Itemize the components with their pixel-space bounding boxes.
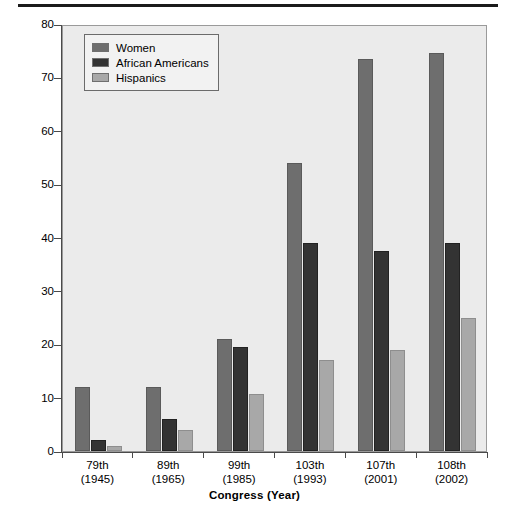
y-axis-tick-label: 10: [0, 392, 54, 404]
y-axis-tick-label: 60: [0, 125, 54, 137]
y-axis-tick-label: 80: [0, 18, 54, 30]
bar-hispanics-108th: [461, 318, 476, 451]
y-axis-tick-label: 70: [0, 71, 54, 83]
y-axis-tick: [54, 291, 61, 292]
plot-area: Women African Americans Hispanics: [62, 25, 487, 452]
x-axis-title: Congress (Year): [0, 489, 509, 501]
y-axis-tick-label: 0: [0, 445, 54, 457]
y-axis-tick: [54, 25, 61, 26]
legend-label-women: Women: [116, 42, 155, 54]
y-axis-tick-label: 20: [0, 338, 54, 350]
bar-women-108th: [429, 53, 444, 451]
legend-swatch-hispanics-icon: [92, 73, 109, 82]
y-axis-tick: [54, 345, 61, 346]
y-axis-tick: [54, 238, 61, 239]
bar-african-americans-103th: [303, 243, 318, 451]
y-axis-tick-label: 50: [0, 178, 54, 190]
bar-african-americans-99th: [233, 347, 248, 451]
y-axis-tick: [54, 398, 61, 399]
bar-african-americans-108th: [445, 243, 460, 451]
x-axis-group-label: 108th(2002): [407, 458, 497, 486]
y-axis-tick: [54, 185, 61, 186]
x-axis-line: [54, 452, 488, 453]
bar-women-103th: [287, 163, 302, 451]
chart-legend: Women African Americans Hispanics: [84, 34, 219, 91]
figure-container: Number 01020304050607080 Women African A…: [0, 0, 509, 508]
bar-hispanics-107th: [390, 350, 405, 451]
legend-item-women: Women: [92, 40, 209, 55]
x-axis-congress-label: 108th: [407, 458, 497, 472]
legend-swatch-african-americans-icon: [92, 58, 109, 67]
y-axis-tick: [54, 78, 61, 79]
bar-hispanics-89th: [178, 430, 193, 451]
x-axis-year-label: (2002): [407, 472, 497, 486]
y-axis-tick-label: 30: [0, 285, 54, 297]
bar-women-89th: [146, 387, 161, 451]
bar-women-79th: [75, 387, 90, 451]
y-axis-tick-label: 40: [0, 232, 54, 244]
bar-african-americans-107th: [374, 251, 389, 451]
bar-african-americans-79th: [91, 440, 106, 451]
legend-item-african-americans: African Americans: [92, 55, 209, 70]
bar-women-107th: [358, 59, 373, 451]
bar-african-americans-89th: [162, 419, 177, 451]
header-rule: [18, 4, 498, 7]
y-axis-tick: [54, 131, 61, 132]
bar-hispanics-99th: [249, 394, 264, 451]
bar-women-99th: [217, 339, 232, 451]
bar-hispanics-79th: [107, 446, 122, 451]
legend-item-hispanics: Hispanics: [92, 70, 209, 85]
bar-hispanics-103th: [319, 360, 334, 451]
legend-label-african-americans: African Americans: [116, 57, 209, 69]
legend-swatch-women-icon: [92, 43, 109, 52]
legend-label-hispanics: Hispanics: [116, 72, 166, 84]
